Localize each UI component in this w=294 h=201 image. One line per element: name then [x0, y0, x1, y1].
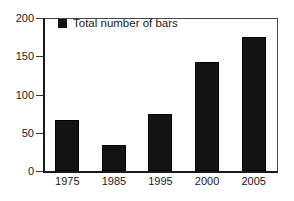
bar-slot: [91, 18, 138, 171]
legend-swatch-icon: [58, 19, 67, 28]
legend-label: Total number of bars: [73, 18, 178, 30]
bar-slot: [230, 18, 277, 171]
bar: [55, 120, 79, 171]
y-axis-tick-label: 200: [0, 13, 34, 24]
y-axis-tick: [36, 18, 43, 19]
bars-layer: [44, 18, 277, 171]
y-axis-tick: [36, 133, 43, 134]
bar-slot: [44, 18, 91, 171]
bar: [242, 37, 266, 171]
x-axis: 19751985199520002005: [44, 176, 277, 194]
x-axis-tick-label: 1985: [91, 176, 138, 187]
bar: [148, 114, 172, 171]
x-axis-tick-label: 1995: [137, 176, 184, 187]
x-axis-tick-label: 2000: [184, 176, 231, 187]
bar-slot: [184, 18, 231, 171]
x-axis-line: [43, 171, 278, 173]
bar: [102, 145, 126, 171]
x-axis-tick-label: 2005: [230, 176, 277, 187]
bar: [195, 62, 219, 171]
x-axis-tick-label: 1975: [44, 176, 91, 187]
y-axis-tick-label: 50: [0, 128, 34, 139]
y-axis-tick-label: 0: [0, 166, 34, 177]
y-axis-tick-label: 100: [0, 90, 34, 101]
y-axis-tick: [36, 171, 43, 172]
y-axis-tick-label: 150: [0, 51, 34, 62]
y-axis-tick: [36, 95, 43, 96]
legend: Total number of bars: [58, 18, 178, 30]
bar-chart: 050100150200 19751985199520002005 Total …: [0, 0, 294, 201]
bar-slot: [137, 18, 184, 171]
y-axis-tick: [36, 56, 43, 57]
